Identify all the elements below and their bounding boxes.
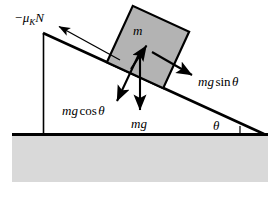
mg-cos-theta-label: mgcosθ <box>62 103 105 118</box>
mg-sin-theta-label: mgsinθ <box>198 74 239 89</box>
friction-normal-symbol: N <box>34 10 45 25</box>
friction-label: −μKN <box>14 10 45 27</box>
inclined-plane-diagram: −μKN m mgsinθ mgcosθ mg θ <box>0 0 277 197</box>
ground-fill <box>12 135 268 182</box>
mg-cos-cos-part: cos <box>79 103 96 118</box>
mg-sin-theta-part: θ <box>232 74 239 89</box>
block-body <box>107 6 189 88</box>
mg-cos-theta-part: θ <box>98 103 105 118</box>
mg-sin-sin-part: sin <box>215 74 231 89</box>
weight-label: mg <box>131 116 147 131</box>
mg-cos-mg-part: mg <box>62 103 78 118</box>
mass-label: m <box>133 23 142 38</box>
mg-sin-mg-part: mg <box>198 74 214 89</box>
block-mass <box>107 6 189 88</box>
incline-angle-label: θ <box>213 118 220 133</box>
physics-figure: −μKN m mgsinθ mgcosθ mg θ <box>0 0 277 197</box>
friction-minus-sign: − <box>14 10 23 25</box>
